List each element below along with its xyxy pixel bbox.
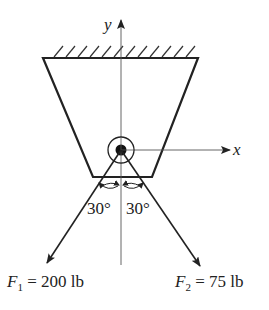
force-diagram: y x 30° 30° F1 = 200 lb F2 = 75 lb (0, 0, 269, 310)
angle-left-label: 30° (87, 199, 111, 218)
force-f2-label: F2 = 75 lb (174, 272, 243, 293)
y-axis-label: y (102, 15, 112, 34)
x-axis-label: x (232, 140, 241, 159)
ceiling-hatch (54, 46, 195, 57)
force-f1-label: F1 = 200 lb (6, 272, 84, 293)
angle-right-label: 30° (126, 199, 150, 218)
